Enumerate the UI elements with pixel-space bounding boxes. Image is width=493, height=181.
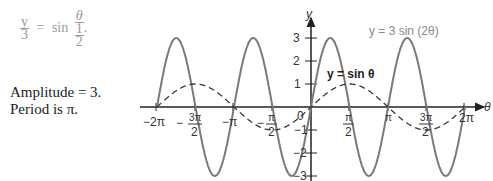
y-tick-neg1: −1 bbox=[294, 123, 308, 137]
svg-text:2: 2 bbox=[422, 125, 429, 139]
x-tick-negpi2: − π 2 bbox=[257, 112, 277, 139]
y-tick-neg3: −3 bbox=[293, 169, 307, 181]
svg-text:3π: 3π bbox=[420, 112, 433, 123]
x-axis-label: θ bbox=[484, 100, 491, 114]
svg-text:π: π bbox=[345, 112, 352, 123]
svg-text:3π: 3π bbox=[189, 112, 202, 123]
svg-text:2: 2 bbox=[345, 125, 352, 139]
y-tick-1: 1 bbox=[294, 77, 301, 91]
y-tick-neg2: −2 bbox=[293, 146, 307, 160]
x-tick-pi: π bbox=[385, 112, 392, 123]
label-sintheta: y = sin θ bbox=[327, 67, 375, 81]
svg-text:−: − bbox=[176, 116, 183, 130]
svg-text:2: 2 bbox=[268, 125, 275, 139]
svg-text:π: π bbox=[268, 112, 275, 123]
svg-text:−: − bbox=[257, 116, 264, 130]
svg-text:2: 2 bbox=[191, 125, 198, 139]
x-tick-neg2pi: −2π bbox=[143, 115, 165, 129]
origin-label: 0 bbox=[297, 109, 304, 123]
x-tick-2pi: 2π bbox=[459, 111, 474, 125]
x-tick-negpi: −π bbox=[222, 115, 237, 129]
y-axis-label: y bbox=[305, 7, 313, 21]
y-tick-2: 2 bbox=[293, 54, 300, 68]
label-3sin2theta: y = 3 sin (2θ) bbox=[369, 24, 439, 38]
chart: 3 2 1 0 −1 −2 −3 y −2π − 3π 2 −π − π 2 π… bbox=[0, 0, 493, 181]
y-tick-3: 3 bbox=[293, 31, 300, 45]
